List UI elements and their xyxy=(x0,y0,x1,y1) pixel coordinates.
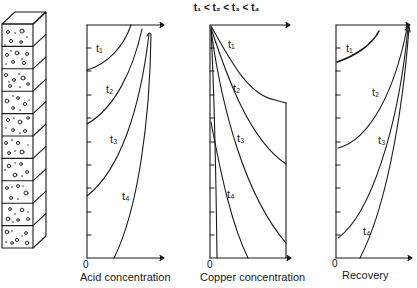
copper-label-t1: t₁ xyxy=(228,38,235,50)
copper-label-t2: t₂ xyxy=(233,82,240,94)
diagram-canvas xyxy=(0,0,417,288)
copper-label-t3: t₃ xyxy=(237,132,245,144)
copper-curve-t2 xyxy=(211,28,286,164)
copper-label-t4: t₄ xyxy=(227,188,235,200)
copper-xlabel: Copper concentration xyxy=(200,271,305,283)
copper-chart xyxy=(210,23,291,261)
ore-column xyxy=(2,12,46,248)
recovery-ticks xyxy=(336,48,340,235)
recovery-origin: 0 xyxy=(332,258,338,269)
recovery-chart xyxy=(336,23,412,261)
acid-origin: 0 xyxy=(83,259,89,270)
recovery-label-t4: t₄ xyxy=(363,225,371,237)
acid-label-t3: t₃ xyxy=(110,133,118,145)
acid-ticks xyxy=(87,48,91,235)
recovery-label-t1: t₁ xyxy=(346,42,353,54)
acid-curve-t4 xyxy=(114,33,151,258)
recovery-curve-t3 xyxy=(338,28,408,238)
recovery-label-t3: t₃ xyxy=(378,134,386,146)
acid-label-t1: t₁ xyxy=(96,42,103,54)
acid-label-t2: t₂ xyxy=(106,83,113,95)
acid-xlabel: Acid concentration xyxy=(80,271,171,283)
recovery-xlabel: Recovery xyxy=(342,269,388,281)
recovery-label-t2: t₂ xyxy=(372,86,379,98)
copper-origin: 0 xyxy=(207,259,213,270)
acid-chart xyxy=(87,23,164,261)
acid-curve-t1 xyxy=(87,25,131,70)
recovery-curve-t1 xyxy=(337,31,379,62)
acid-label-t4: t₄ xyxy=(122,190,130,202)
